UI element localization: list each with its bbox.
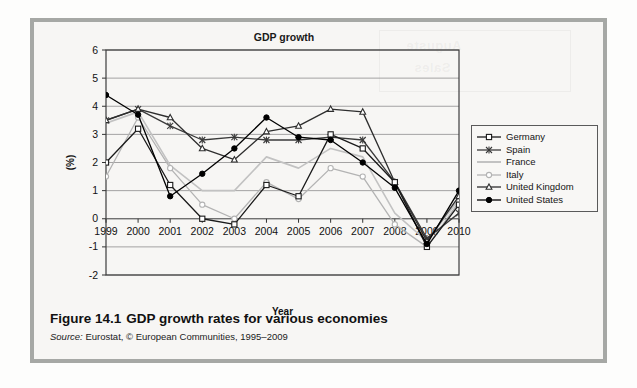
- svg-text:6: 6: [92, 44, 98, 56]
- svg-text:0: 0: [92, 212, 98, 224]
- svg-text:2: 2: [92, 156, 98, 168]
- legend-item-label: Italy: [506, 169, 523, 181]
- svg-text:2010: 2010: [447, 225, 471, 237]
- figure-inner-panel: Auguste Sales GDP growth 6543210-1-21999…: [34, 22, 603, 359]
- legend-marker-icon: [476, 169, 502, 181]
- legend-item-italy[interactable]: Italy: [476, 169, 593, 182]
- caption-number: Figure 14.1: [50, 311, 121, 326]
- svg-text:2004: 2004: [255, 225, 279, 237]
- svg-text:3: 3: [92, 128, 98, 140]
- legend-item-united-kingdom[interactable]: United Kingdom: [476, 181, 593, 194]
- caption-source-line: Source: Eurostat, © European Communities…: [50, 331, 595, 343]
- svg-text:2006: 2006: [319, 225, 343, 237]
- legend-marker-icon: [476, 131, 502, 143]
- legend-item-label: France: [506, 156, 536, 168]
- legend-item-spain[interactable]: Spain: [476, 144, 593, 157]
- svg-text:2005: 2005: [287, 225, 311, 237]
- y-axis-label: (%): [65, 155, 76, 171]
- svg-text:-1: -1: [89, 240, 98, 252]
- chart-legend: GermanySpainFranceItalyUnited KingdomUni…: [471, 125, 598, 212]
- caption-title-line: Figure 14.1GDP growth rates for various …: [50, 310, 595, 327]
- source-value: Eurostat, © European Communities, 1995–2…: [83, 331, 288, 342]
- svg-text:2000: 2000: [126, 225, 150, 237]
- legend-item-united-states[interactable]: United States: [476, 194, 593, 207]
- legend-item-label: Germany: [506, 131, 545, 143]
- legend-marker-icon: [476, 181, 502, 193]
- legend-marker-icon: [476, 156, 502, 168]
- legend-item-label: Spain: [506, 144, 530, 156]
- legend-item-france[interactable]: France: [476, 156, 593, 169]
- legend-item-label: United States: [506, 194, 563, 206]
- source-label: Source:: [50, 331, 83, 342]
- svg-text:1: 1: [92, 184, 98, 196]
- svg-text:2002: 2002: [191, 225, 215, 237]
- svg-text:5: 5: [92, 72, 98, 84]
- svg-text:1999: 1999: [94, 225, 118, 237]
- figure-caption: Figure 14.1GDP growth rates for various …: [50, 310, 595, 343]
- page-background: Auguste Sales GDP growth 6543210-1-21999…: [0, 0, 637, 388]
- legend-item-germany[interactable]: Germany: [476, 131, 593, 144]
- figure-frame: Auguste Sales GDP growth 6543210-1-21999…: [30, 18, 607, 363]
- legend-marker-icon: [476, 144, 502, 156]
- svg-text:2007: 2007: [351, 225, 375, 237]
- legend-marker-icon: [476, 194, 502, 206]
- legend-item-label: United Kingdom: [506, 181, 574, 193]
- svg-text:2001: 2001: [159, 225, 183, 237]
- svg-text:4: 4: [92, 100, 98, 112]
- caption-text: GDP growth rates for various economies: [126, 311, 388, 326]
- svg-text:-2: -2: [89, 269, 98, 281]
